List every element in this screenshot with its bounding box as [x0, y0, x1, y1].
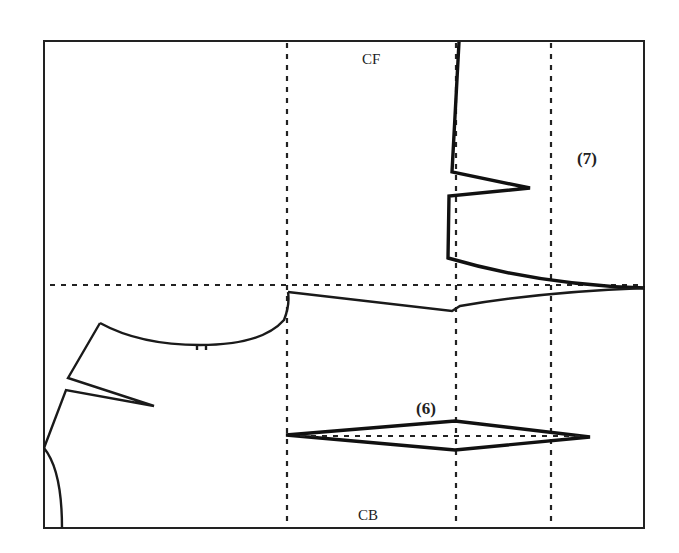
- shoulder-dart: [44, 323, 154, 448]
- label-step-6: (6): [416, 399, 436, 418]
- pattern-drafting-diagram: CF CB (6) (7): [0, 0, 679, 553]
- waist-line: [288, 288, 645, 311]
- outer-frame: [44, 41, 644, 528]
- neckline-curve: [44, 448, 62, 528]
- label-cb: CB: [358, 507, 378, 523]
- center-front-line-with-dart: [448, 42, 645, 288]
- armhole-curve: [100, 292, 289, 345]
- label-step-7: (7): [577, 149, 597, 168]
- label-cf: CF: [362, 51, 380, 67]
